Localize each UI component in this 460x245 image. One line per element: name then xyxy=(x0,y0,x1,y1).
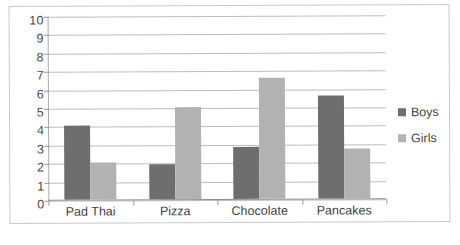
bar-boys-chocolate xyxy=(233,147,259,199)
x-axis-tick-labels: Pad ThaiPizzaChocolatePancakes xyxy=(48,204,386,225)
y-axis-tick-label: 10 xyxy=(14,15,44,28)
y-axis-tick-label: 2 xyxy=(14,162,44,175)
legend-label: Girls xyxy=(411,132,437,145)
y-axis-tick-label: 9 xyxy=(14,33,44,46)
x-axis-tick-label: Pancakes xyxy=(317,204,372,218)
bar-girls-pizza xyxy=(175,107,201,199)
bar-boys-pizza xyxy=(149,164,175,199)
y-axis-tick-label: 6 xyxy=(14,88,44,101)
y-axis-tick-labels: 109876543210 xyxy=(14,11,45,201)
bar-group xyxy=(317,15,370,199)
bar-girls-pad-thai xyxy=(90,163,116,200)
bar-boys-pad-thai xyxy=(64,126,90,200)
chart-screenshot: 109876543210 Pad ThaiPizzaChocolatePanca… xyxy=(0,0,460,245)
bar-group xyxy=(64,16,117,200)
x-axis-tick-label: Chocolate xyxy=(231,205,287,219)
y-axis-tick-label: 5 xyxy=(14,107,44,120)
y-axis-tick-label: 1 xyxy=(14,180,44,193)
plot-area xyxy=(48,15,387,200)
chart-frame: 109876543210 Pad ThaiPizzaChocolatePanca… xyxy=(9,4,451,224)
legend: BoysGirls xyxy=(398,105,458,157)
legend-swatch-icon xyxy=(398,134,406,142)
legend-item-girls[interactable]: Girls xyxy=(398,131,458,145)
bar-girls-pancakes xyxy=(344,149,370,199)
y-axis-tick-label: 0 xyxy=(14,199,44,212)
bar-group xyxy=(148,16,201,200)
bar-girls-chocolate xyxy=(259,77,286,199)
bar-boys-pancakes xyxy=(318,95,344,198)
legend-item-boys[interactable]: Boys xyxy=(398,105,458,119)
legend-label: Boys xyxy=(411,106,439,119)
chart-inner: 109876543210 Pad ThaiPizzaChocolatePanca… xyxy=(10,5,452,225)
y-axis-tick-label: 4 xyxy=(14,125,44,138)
legend-swatch-icon xyxy=(398,108,406,116)
y-axis-tick-label: 3 xyxy=(14,143,44,156)
y-axis-tick-label: 8 xyxy=(14,51,44,64)
bars-layer xyxy=(48,15,387,200)
x-axis-tick-label: Pad Thai xyxy=(66,205,116,219)
y-axis-tick-label: 7 xyxy=(14,70,44,83)
x-axis-tick-mark xyxy=(386,199,387,204)
bar-group xyxy=(233,16,286,200)
x-axis-tick-label: Pizza xyxy=(160,205,191,219)
